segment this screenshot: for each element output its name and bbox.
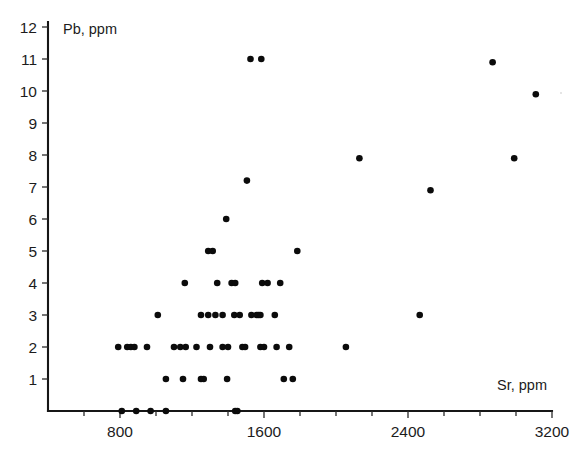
x-axis-title: Sr, ppm — [497, 377, 547, 393]
data-point — [223, 216, 230, 223]
data-point — [236, 312, 243, 319]
data-point — [200, 376, 207, 383]
y-tick-label-5: 5 — [28, 243, 37, 260]
data-point — [273, 344, 280, 351]
y-tick-label-11: 11 — [21, 51, 37, 68]
data-point — [258, 56, 265, 63]
data-point — [489, 59, 496, 66]
data-point — [144, 344, 151, 351]
data-point — [115, 344, 122, 351]
data-point — [261, 344, 268, 351]
data-point — [247, 56, 254, 63]
data-point — [198, 312, 205, 319]
y-tick-label-8: 8 — [28, 147, 37, 164]
data-point — [277, 280, 284, 287]
data-point — [343, 344, 350, 351]
y-axis-title: Pb, ppm — [63, 21, 117, 37]
data-point — [416, 312, 423, 319]
x-tick-label-800: 800 — [107, 423, 133, 440]
data-point — [147, 408, 154, 415]
data-point — [286, 344, 293, 351]
data-point — [209, 248, 216, 255]
y-tick-label-2: 2 — [28, 339, 37, 356]
scatter-chart-figure: 123456789101112800160024003200Pb, ppmSr,… — [0, 0, 585, 461]
y-tick-label-1: 1 — [28, 371, 37, 388]
figure-caption — [22, 449, 562, 460]
y-tick-label-7: 7 — [28, 179, 37, 196]
data-point — [133, 408, 140, 415]
data-point — [232, 280, 239, 287]
data-point — [272, 312, 279, 319]
data-point-group — [115, 56, 539, 415]
data-point — [193, 344, 200, 351]
y-tick-label-9: 9 — [28, 115, 37, 132]
data-point — [225, 344, 232, 351]
data-point — [212, 312, 219, 319]
x-tick-label-2400: 2400 — [391, 423, 426, 440]
y-tick-label-4: 4 — [28, 275, 37, 292]
data-point — [182, 280, 189, 287]
data-point — [205, 312, 212, 319]
data-point — [171, 344, 178, 351]
data-point — [119, 408, 126, 415]
x-tick-label-3200: 3200 — [535, 423, 570, 440]
data-point — [533, 91, 540, 98]
x-tick-label-1600: 1600 — [247, 423, 282, 440]
data-point — [511, 155, 518, 162]
data-point — [131, 344, 138, 351]
speckle-artifact — [560, 92, 562, 94]
data-point — [356, 155, 363, 162]
data-point — [182, 344, 189, 351]
data-point — [281, 376, 288, 383]
data-point — [244, 177, 251, 184]
data-point — [257, 312, 264, 319]
data-point — [294, 248, 301, 255]
y-tick-label-3: 3 — [28, 307, 37, 324]
data-point — [155, 312, 162, 319]
y-tick-label-10: 10 — [20, 83, 38, 100]
y-tick-label-6: 6 — [28, 211, 37, 228]
data-point — [224, 376, 231, 383]
data-point — [290, 376, 297, 383]
data-point — [180, 376, 187, 383]
data-point — [163, 376, 170, 383]
data-point — [427, 187, 434, 194]
data-point — [207, 344, 214, 351]
plot-canvas: 123456789101112800160024003200Pb, ppmSr,… — [0, 0, 585, 461]
data-point — [242, 344, 249, 351]
data-point — [264, 280, 271, 287]
data-point — [214, 280, 221, 287]
y-tick-label-12: 12 — [20, 19, 37, 36]
data-point — [219, 312, 226, 319]
data-point — [234, 408, 241, 415]
data-point — [163, 408, 170, 415]
